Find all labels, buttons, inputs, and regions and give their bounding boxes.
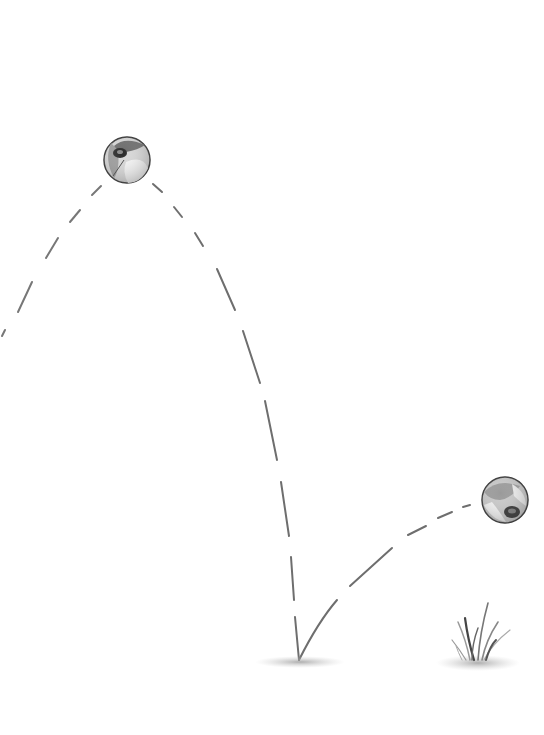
trajectory-rebound	[299, 505, 470, 660]
trajectory-incoming	[2, 186, 101, 336]
bouncing-ball-illustration: Pencil illustration of a beach ball boun…	[0, 0, 544, 735]
beach-ball-rebound	[482, 477, 528, 523]
beach-ball-apex	[104, 137, 150, 183]
impact-shadow	[255, 656, 345, 668]
grass-tuft	[452, 603, 510, 660]
trajectory-descending	[153, 184, 299, 660]
